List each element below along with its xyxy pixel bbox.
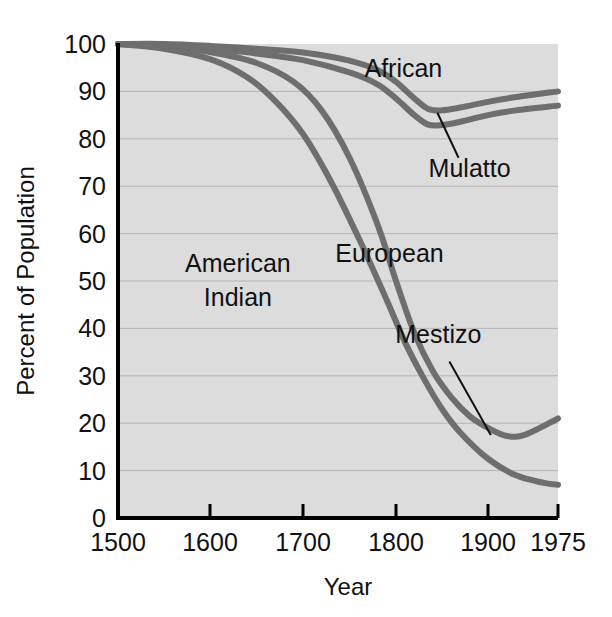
x-tick-label-1700: 1700 <box>275 528 331 556</box>
x-tick-label-1900: 1900 <box>460 528 516 556</box>
y-tick-label-30: 30 <box>78 362 106 390</box>
y-tick-label-40: 40 <box>78 314 106 342</box>
y-tick-label-10: 10 <box>78 457 106 485</box>
x-tick-label-1800: 1800 <box>368 528 424 556</box>
chart-canvas: 0102030405060708090100 15001600170018001… <box>0 0 612 617</box>
series-label-american-indian: American <box>185 249 291 277</box>
y-tick-label-70: 70 <box>78 172 106 200</box>
series-label-american-indian-line2: Indian <box>204 283 272 311</box>
y-tick-label-60: 60 <box>78 220 106 248</box>
population-composition-chart: 0102030405060708090100 15001600170018001… <box>0 0 612 617</box>
series-label-european: European <box>335 239 443 267</box>
y-tick-label-100: 100 <box>64 30 106 58</box>
series-label-mulatto: Mulatto <box>429 154 511 182</box>
y-axis-title: Percent of Population <box>12 166 39 396</box>
x-axis-title: Year <box>324 573 373 600</box>
series-label-mestizo: Mestizo <box>395 320 481 348</box>
y-tick-label-20: 20 <box>78 409 106 437</box>
y-tick-label-50: 50 <box>78 267 106 295</box>
x-tick-label-1600: 1600 <box>182 528 238 556</box>
x-tick-label-1975: 1975 <box>530 528 586 556</box>
y-tick-label-80: 80 <box>78 125 106 153</box>
series-label-african: African <box>364 54 442 82</box>
x-tick-label-1500: 1500 <box>90 528 146 556</box>
y-tick-label-90: 90 <box>78 77 106 105</box>
